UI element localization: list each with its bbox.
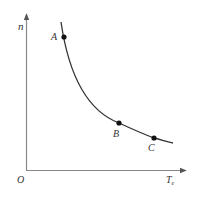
- x-axis-label-subscript: e: [172, 180, 175, 186]
- x-axis-label: Te: [166, 174, 175, 186]
- point-c: [151, 135, 156, 140]
- point-b: [116, 120, 121, 125]
- point-a-label: A: [50, 31, 58, 42]
- point-b-label: B: [113, 128, 119, 139]
- y-axis-label: n: [18, 20, 24, 32]
- point-c-label: C: [148, 142, 155, 153]
- point-a: [61, 34, 66, 39]
- origin-label: O: [17, 174, 24, 185]
- n-te-curve: [61, 22, 173, 143]
- n-vs-te-diagram: n O Te A B C: [0, 0, 199, 197]
